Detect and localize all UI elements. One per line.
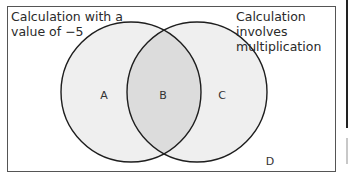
adjacent-content-mark	[346, 138, 348, 164]
region-label-b: B	[159, 89, 167, 102]
set-right-title: Calculation involves multiplication	[236, 9, 348, 54]
set-left-title: Calculation with a value of −5	[11, 9, 131, 39]
region-label-d: D	[266, 155, 274, 168]
adjacent-content-edge	[346, 0, 348, 128]
region-label-c: C	[218, 89, 226, 102]
region-label-a: A	[100, 89, 108, 102]
